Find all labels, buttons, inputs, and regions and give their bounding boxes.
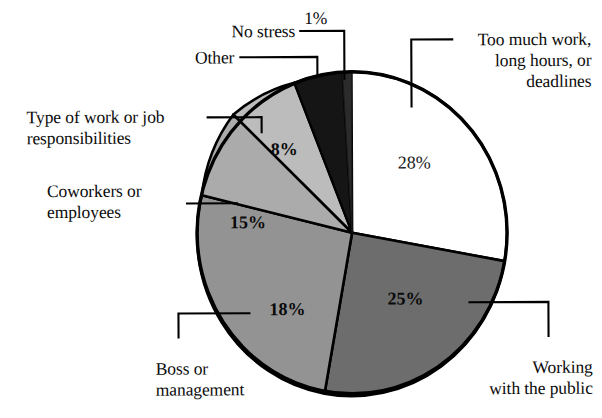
callout-coworkers: Coworkers or employees xyxy=(47,180,207,223)
callout-other: Other xyxy=(149,47,234,68)
callout-type-of-work: Type of work or job responsibilities xyxy=(27,106,212,149)
slice-value-too-much-work: 28% xyxy=(398,152,431,172)
slice-value-coworkers: 15% xyxy=(230,212,266,232)
callout-no-stress-value: 1% xyxy=(304,8,354,29)
pie-chart-figure: Too much work, long hours, or deadlines … xyxy=(0,0,602,418)
callout-too-much-work: Too much work, long hours, or deadlines xyxy=(401,29,591,93)
callout-boss-management: Boss or management xyxy=(156,358,341,401)
callout-no-stress: No stress xyxy=(195,21,295,42)
slice-value-type-of-work: 8% xyxy=(271,139,298,159)
slice-value-working-public: 25% xyxy=(387,288,423,308)
callout-working-with-public: Working with the public xyxy=(393,357,593,400)
slice-value-boss-management: 18% xyxy=(269,299,305,319)
leader-line-other xyxy=(239,57,317,75)
